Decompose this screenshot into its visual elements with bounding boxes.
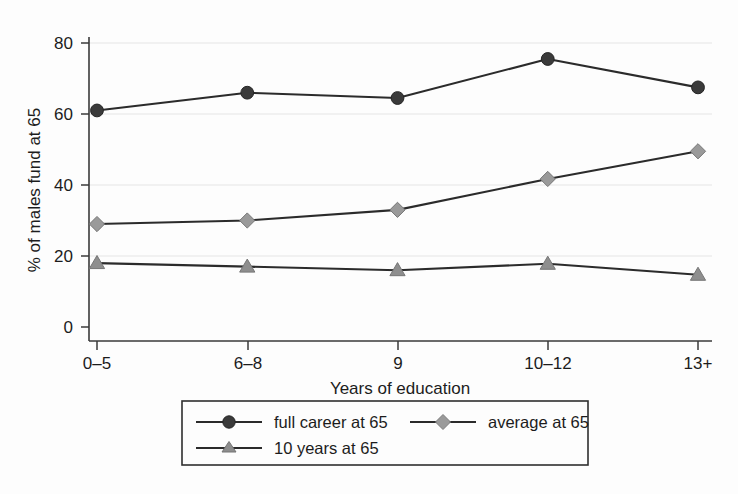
legend-circle-icon: [223, 416, 235, 428]
data-point-triangle: [540, 256, 555, 269]
series-layer: [89, 53, 705, 281]
y-tick-labels: 80 60 40 20 0: [54, 34, 73, 337]
data-point-diamond: [89, 216, 104, 231]
y-axis-title: % of males fund at 65: [25, 108, 44, 272]
x-axis-title: Years of education: [330, 379, 470, 398]
legend-label-average: average at 65: [488, 413, 589, 431]
x-tick-labels: 0–5 6–8 9 10–12 13+: [83, 354, 713, 373]
legend-label-full-career: full career at 65: [274, 413, 388, 431]
chart-figure: 80 60 40 20 0 0–5 6–8 9 10–12 13+ % of m…: [0, 0, 738, 494]
legend: full career at 65 average at 65 10 years…: [182, 401, 589, 465]
data-point-diamond: [240, 213, 255, 228]
line-chart: 80 60 40 20 0 0–5 6–8 9 10–12 13+ % of m…: [0, 0, 738, 494]
y-tick-label-60: 60: [54, 105, 73, 124]
series-full-career-at-65: [91, 53, 705, 117]
legend-label-ten-years: 10 years at 65: [274, 439, 379, 457]
data-point-diamond: [540, 171, 555, 186]
legend-triangle-icon: [222, 442, 236, 453]
legend-diamond-icon: [436, 415, 451, 430]
data-point-triangle: [89, 256, 104, 269]
legend-entry-full-career[interactable]: full career at 65: [196, 413, 388, 431]
axes: [81, 37, 712, 350]
y-tick-label-0: 0: [64, 318, 73, 337]
series-average-at-65: [89, 144, 705, 232]
gridlines: [89, 43, 712, 256]
data-point-diamond: [390, 202, 405, 217]
x-tick-label-1: 6–8: [234, 354, 262, 373]
x-tick-label-3: 10–12: [524, 354, 571, 373]
series-10-years-at-65: [89, 256, 705, 281]
y-tick-label-40: 40: [54, 176, 73, 195]
x-tick-label-4: 13+: [684, 354, 713, 373]
data-point-circle: [241, 86, 254, 99]
x-tick-label-0: 0–5: [83, 354, 111, 373]
data-point-circle: [91, 104, 104, 117]
data-point-circle: [391, 92, 404, 105]
legend-entry-average[interactable]: average at 65: [410, 413, 589, 431]
legend-entry-ten-years[interactable]: 10 years at 65: [196, 439, 379, 457]
legend-box: [182, 401, 588, 465]
x-tick-label-2: 9: [393, 354, 402, 373]
data-point-circle: [692, 81, 705, 94]
y-tick-label-80: 80: [54, 34, 73, 53]
data-point-diamond: [690, 144, 705, 159]
data-point-circle: [541, 53, 554, 66]
y-tick-label-20: 20: [54, 247, 73, 266]
